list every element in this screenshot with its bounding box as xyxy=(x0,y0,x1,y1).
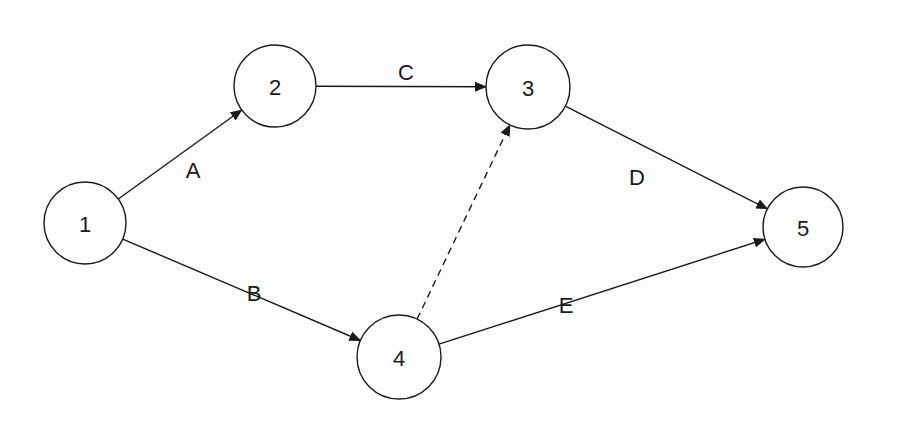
node-label: 4 xyxy=(393,346,405,371)
edges-layer xyxy=(118,86,767,344)
event-node-2: 2 xyxy=(234,45,316,127)
dummy-activity-arrow xyxy=(417,125,510,319)
node-label: 5 xyxy=(797,216,809,241)
activity-label-e: E xyxy=(559,293,574,318)
activity-arrow-d xyxy=(565,106,767,209)
activity-arrow-b xyxy=(123,239,361,340)
activity-label-b: B xyxy=(247,281,262,306)
activity-label-c: C xyxy=(398,60,414,85)
activity-arrow-a xyxy=(118,110,241,199)
event-node-5: 5 xyxy=(763,187,843,267)
activity-label-d: D xyxy=(629,165,645,190)
node-label: 2 xyxy=(269,75,281,100)
activity-label-a: A xyxy=(186,158,201,183)
event-node-3: 3 xyxy=(486,45,570,129)
activity-arrow-e xyxy=(439,239,765,344)
event-node-1: 1 xyxy=(44,182,126,264)
node-label: 1 xyxy=(79,212,91,237)
activity-arrow-c xyxy=(316,86,486,87)
node-label: 3 xyxy=(522,76,534,101)
event-node-4: 4 xyxy=(357,315,441,399)
nodes-layer: 12345 xyxy=(44,45,843,399)
network-diagram: 12345 ABCDE xyxy=(0,0,897,425)
